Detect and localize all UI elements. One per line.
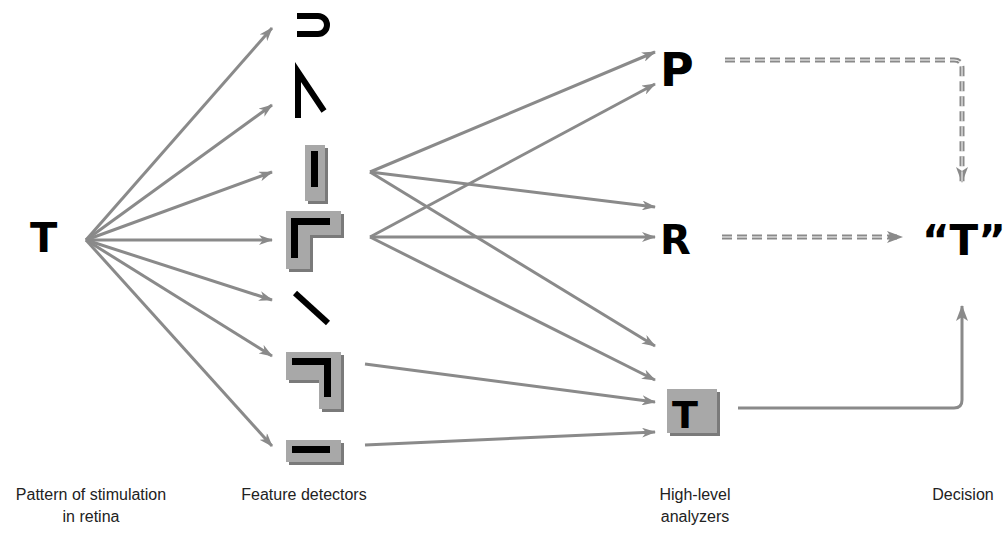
feature-corner-top-left-icon (286, 211, 344, 272)
feature-corner-top-right-icon (286, 352, 344, 412)
label-analyzers-line1: High-level (640, 484, 750, 506)
feature-detection-diagram: T (0, 0, 1006, 539)
decision-output: “T” (922, 216, 1006, 265)
label-high-level-analyzers: High-level analyzers (640, 484, 750, 528)
retina-to-feature-arrows (86, 28, 272, 446)
feature-horizontal-bar-icon (286, 440, 344, 465)
label-feature-detectors: Feature detectors (234, 484, 374, 506)
retina-stimulus-t: T (30, 215, 58, 261)
label-retina-line1: Pattern of stimulation (0, 484, 182, 506)
feature-diagonal-line-icon (295, 293, 328, 323)
feature-detectors (286, 16, 344, 465)
label-retina: Pattern of stimulation in retina (0, 484, 182, 528)
feature-to-analyzer-arrows (365, 52, 655, 445)
label-analyzers-line2: analyzers (640, 506, 750, 528)
t-to-decision-arrow (738, 306, 962, 408)
analyzer-r: R (660, 217, 691, 263)
feature-curve-icon (297, 16, 327, 34)
feature-vertical-bar-icon (305, 145, 328, 204)
svg-text:T: T (672, 393, 698, 437)
p-to-decision-dashed-arrow (725, 60, 962, 182)
analyzer-p: P (660, 43, 694, 97)
feature-diagonal-angle-icon (298, 72, 324, 118)
label-retina-line2: in retina (0, 506, 182, 528)
label-decision: Decision (920, 484, 1006, 506)
analyzer-t-highlighted: T (667, 389, 720, 437)
